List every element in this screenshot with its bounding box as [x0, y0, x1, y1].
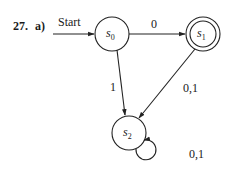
state-s0: s0	[95, 17, 129, 51]
start-label: Start	[58, 15, 81, 29]
problem-number: 27.	[13, 19, 28, 33]
transition-label-s1-s2: 0,1	[183, 81, 198, 95]
transition-s2-self-loop	[136, 140, 156, 160]
state-s2: s2	[112, 116, 146, 150]
state-s1-accepting: s1	[186, 17, 220, 51]
svg-text:s1: s1	[197, 26, 206, 42]
fsm-diagram: 27. a) Start s0 s1 s2 0 1 0,1 0,1	[0, 0, 227, 172]
transition-label-s2-self: 0,1	[189, 147, 204, 161]
svg-text:s0: s0	[106, 26, 115, 42]
transition-label-s0-s2: 1	[110, 80, 116, 94]
transition-s0-s2	[117, 50, 125, 115]
problem-part: a)	[35, 19, 45, 33]
svg-text:s2: s2	[123, 125, 132, 141]
transition-label-s0-s1: 0	[151, 17, 157, 31]
